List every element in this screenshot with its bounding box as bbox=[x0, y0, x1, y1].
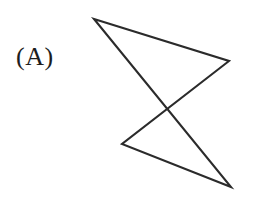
figure-panel: (A) bbox=[0, 0, 254, 198]
crossed-quadrilateral-outline bbox=[94, 19, 231, 187]
crossed-quadrilateral-figure bbox=[0, 0, 254, 198]
